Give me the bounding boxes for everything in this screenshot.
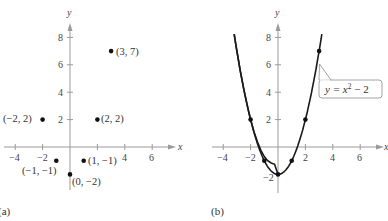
y-tick-label: 4	[266, 87, 271, 98]
point-1-m1	[81, 158, 86, 163]
y-tick-label: 6	[58, 59, 63, 70]
equation-label: y = x2 − 2	[324, 82, 369, 95]
y-tick-label: 6	[266, 59, 271, 70]
panel-a-label: (a)	[0, 205, 11, 218]
panel-b-label: (b)	[211, 205, 224, 218]
x-tick-label: −4	[9, 152, 20, 163]
x-tick-label: 4	[330, 152, 335, 163]
x-tick-label: 6	[149, 152, 154, 163]
x-axis-label: x	[177, 141, 183, 152]
panel-a-scatter: x y −4 −2 4 6 2 4 6 8	[0, 7, 183, 218]
x-tick-label: 2	[303, 152, 308, 163]
y-tick-label: −2	[263, 172, 274, 183]
point-labels: (−2, 2) (−1, −1) (0, −2) (1, −1) (2, 2) …	[3, 46, 139, 188]
x-tick-label: 6	[357, 152, 362, 163]
x-axis-arrow-icon	[168, 145, 176, 150]
figure: x y −4 −2 4 6 2 4 6 8	[0, 0, 388, 221]
y-tick-label: 2	[266, 114, 271, 125]
x-tick-label: 4	[122, 152, 127, 163]
point-label: (0, −2)	[72, 176, 101, 188]
point-label: (−1, −1)	[22, 165, 57, 177]
y-axis-arrow-icon	[68, 23, 73, 31]
y-axis-label: y	[274, 7, 280, 18]
point-label: (1, −1)	[88, 155, 117, 167]
y-axis-label: y	[66, 7, 72, 18]
point-m2-2	[40, 117, 45, 122]
panel-b-parabola: x y −4 −2 2 4 6 −2 2 4 6 8	[211, 7, 388, 218]
x-axis-arrow-icon	[376, 145, 384, 150]
parabola-curve-precise	[234, 34, 278, 174]
point-label: (3, 7)	[116, 46, 139, 58]
y-ticks: 2 4 6 8	[58, 32, 73, 125]
x-tick-label: −4	[217, 152, 228, 163]
equation-callout: y = x2 − 2	[319, 64, 382, 98]
x-tick-label: −2	[37, 152, 48, 163]
x-tick-label: −2	[245, 152, 256, 163]
y-tick-label: 2	[58, 114, 63, 125]
y-tick-label: 8	[58, 32, 63, 43]
y-axis-arrow-icon	[276, 23, 281, 31]
point-m1-m1	[54, 158, 59, 163]
point-2-2	[95, 117, 100, 122]
point-label: (−2, 2)	[3, 113, 32, 125]
x-axis-label: x	[383, 141, 388, 152]
y-tick-label: 8	[266, 32, 271, 43]
point-3-7	[109, 49, 114, 54]
y-tick-label: 4	[58, 87, 63, 98]
point-label: (2, 2)	[101, 113, 124, 125]
curve-points	[248, 49, 321, 177]
